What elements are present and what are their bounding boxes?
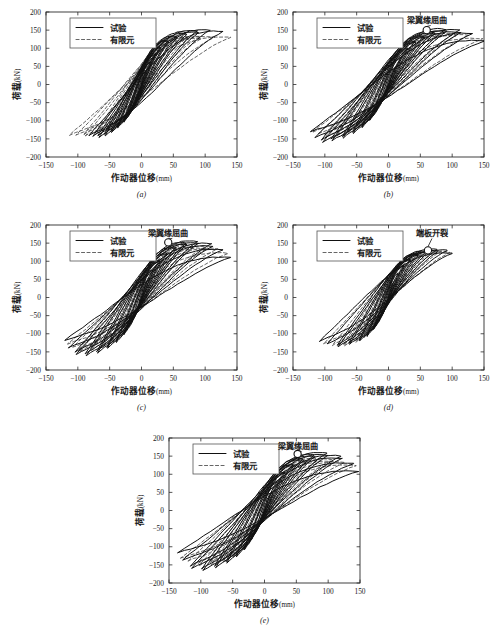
legend-label-fem: 有限元: [357, 35, 382, 45]
x-tick-label: 100: [200, 374, 211, 383]
x-tick-label: 50: [293, 587, 301, 596]
x-tick-label: −150: [38, 374, 54, 383]
y-tick-label: −150: [26, 348, 42, 357]
x-axis-title: 作动器位移(mm): [234, 598, 296, 609]
y-tick-label: 50: [281, 275, 289, 284]
panel-a: −150−100−50050100150−200−150−100−5005010…: [0, 0, 248, 215]
legend: 试验有限元: [317, 18, 403, 48]
legend-label-fem: 有限元: [357, 248, 382, 258]
subcaption: (b): [384, 190, 394, 199]
legend-label-test: 试验: [110, 23, 127, 33]
x-tick-label: −50: [351, 374, 363, 383]
legend-label-fem: 有限元: [110, 248, 135, 258]
annotation-marker-circle: [423, 27, 430, 34]
y-tick-label: 200: [277, 8, 288, 17]
y-tick-label: 0: [37, 293, 41, 302]
y-tick-label: 50: [34, 275, 42, 284]
x-tick-label: 50: [170, 374, 178, 383]
x-tick-label: 0: [263, 587, 267, 596]
x-tick-label: −150: [285, 161, 301, 170]
y-tick-label: −200: [273, 366, 289, 375]
x-tick-label: 0: [140, 161, 144, 170]
y-axis-title: 荷载(kN): [258, 281, 269, 314]
legend-label-test: 试验: [357, 236, 374, 246]
y-tick-label: 200: [30, 221, 41, 230]
y-tick-label: −50: [29, 311, 41, 320]
annotation-marker-circle: [165, 239, 172, 246]
subcaption: (e): [260, 616, 269, 625]
y-tick-label: 200: [277, 221, 288, 230]
y-tick-label: 0: [37, 80, 41, 89]
y-tick-label: 150: [30, 239, 41, 248]
x-tick-label: −50: [104, 161, 116, 170]
y-tick-label: 100: [30, 257, 41, 266]
x-tick-label: 100: [447, 161, 458, 170]
x-tick-label: −50: [104, 374, 116, 383]
y-tick-label: 150: [277, 26, 288, 35]
subcaption: (a): [137, 190, 147, 199]
y-tick-label: 150: [277, 239, 288, 248]
legend-label-fem: 有限元: [233, 461, 258, 471]
panel-c: −150−100−50050100150−200−150−100−5005010…: [0, 213, 248, 428]
annotation-label: 梁翼缘屈曲: [406, 15, 447, 25]
x-tick-label: −100: [70, 161, 86, 170]
x-axis-title: 作动器位移(mm): [358, 172, 420, 183]
y-tick-label: −200: [273, 153, 289, 162]
legend: 试验有限元: [193, 444, 279, 474]
x-tick-label: −50: [351, 161, 363, 170]
y-tick-label: −150: [273, 348, 289, 357]
y-tick-label: −100: [273, 116, 289, 125]
y-tick-label: −150: [149, 561, 165, 570]
y-tick-label: −150: [273, 135, 289, 144]
x-tick-label: 150: [478, 161, 489, 170]
x-tick-label: −100: [70, 374, 86, 383]
x-tick-label: −100: [193, 587, 209, 596]
x-tick-label: 150: [231, 161, 242, 170]
x-tick-label: 50: [170, 161, 178, 170]
x-tick-label: 0: [140, 374, 144, 383]
y-tick-label: 50: [157, 488, 165, 497]
y-tick-label: 100: [30, 44, 41, 53]
annotation-marker-circle: [294, 450, 301, 457]
y-tick-label: −100: [26, 116, 42, 125]
y-tick-label: 100: [153, 470, 164, 479]
y-tick-label: −100: [149, 542, 165, 551]
legend-label-test: 试验: [110, 236, 127, 246]
x-tick-label: −100: [317, 374, 333, 383]
y-axis-title: 荷载(kN): [11, 281, 22, 314]
y-tick-label: −200: [26, 153, 42, 162]
y-tick-label: 150: [153, 452, 164, 461]
x-tick-label: 150: [478, 374, 489, 383]
panel-d: −150−100−50050100150−200−150−100−5005010…: [247, 213, 495, 428]
y-tick-label: 200: [30, 8, 41, 17]
x-tick-label: −50: [227, 587, 239, 596]
panel-e: −150−100−50050100150−200−150−100−5005010…: [123, 426, 371, 638]
y-tick-label: −50: [152, 524, 164, 533]
legend: 试验有限元: [70, 231, 156, 261]
legend-label-test: 试验: [233, 449, 250, 459]
x-tick-label: −150: [161, 587, 177, 596]
y-tick-label: −200: [26, 366, 42, 375]
y-tick-label: 150: [30, 26, 41, 35]
legend: 试验有限元: [317, 231, 403, 261]
x-tick-label: −100: [317, 161, 333, 170]
x-axis-title: 作动器位移(mm): [111, 172, 173, 183]
y-tick-label: −50: [276, 98, 288, 107]
x-tick-label: 0: [387, 161, 391, 170]
x-tick-label: 100: [200, 161, 211, 170]
legend-label-fem: 有限元: [110, 35, 135, 45]
x-tick-label: 150: [231, 374, 242, 383]
x-tick-label: 150: [354, 587, 365, 596]
y-axis-title: 荷载(kN): [11, 68, 22, 101]
y-tick-label: 0: [160, 506, 164, 515]
y-tick-label: 0: [284, 293, 288, 302]
subcaption: (c): [137, 403, 146, 412]
y-tick-label: 100: [277, 257, 288, 266]
legend: 试验有限元: [70, 18, 156, 48]
x-tick-label: 50: [417, 374, 425, 383]
y-tick-label: 100: [277, 44, 288, 53]
y-axis-title: 荷载(kN): [258, 68, 269, 101]
subcaption: (d): [384, 403, 394, 412]
y-tick-label: −50: [276, 311, 288, 320]
annotation-label: 梁翼缘屈曲: [147, 228, 188, 238]
